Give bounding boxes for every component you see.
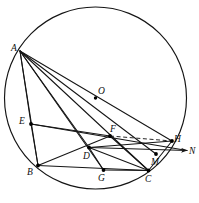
segment-A-E bbox=[20, 51, 31, 124]
point-label-F: F bbox=[110, 125, 116, 135]
segment-B-F bbox=[38, 136, 110, 166]
segment-A-M bbox=[20, 51, 156, 154]
segment-A-H bbox=[20, 51, 172, 141]
segment-D-H bbox=[89, 141, 172, 148]
vertex-dot-E bbox=[29, 122, 33, 126]
vertex-dot-M bbox=[154, 152, 158, 156]
vertex-dot-O bbox=[94, 96, 97, 99]
point-label-D: D bbox=[83, 152, 90, 162]
segment-B-C bbox=[38, 166, 149, 171]
point-label-H: H bbox=[174, 135, 181, 145]
segment-D-G bbox=[89, 148, 104, 171]
segment-A-G bbox=[20, 51, 104, 170]
segment-G-C bbox=[104, 170, 149, 171]
point-label-M: M bbox=[151, 158, 159, 168]
point-label-B: B bbox=[27, 168, 33, 178]
segment-D-C bbox=[89, 148, 149, 171]
segment-E-B bbox=[31, 124, 38, 166]
point-label-G: G bbox=[98, 174, 105, 184]
point-label-N: N bbox=[189, 147, 195, 157]
segment-group bbox=[20, 51, 187, 171]
point-label-C: C bbox=[145, 175, 151, 185]
point-label-A: A bbox=[11, 44, 17, 54]
point-label-E: E bbox=[19, 117, 25, 127]
vertex-dot-G bbox=[102, 168, 106, 172]
geometry-diagram: AOEBDFGCMHN bbox=[0, 0, 199, 203]
vertex-dot-C bbox=[147, 169, 151, 173]
vertex-dot-B bbox=[36, 164, 40, 168]
vertex-dot-D bbox=[87, 146, 91, 150]
point-label-O: O bbox=[98, 87, 105, 97]
vertex-dot-F bbox=[108, 134, 112, 138]
